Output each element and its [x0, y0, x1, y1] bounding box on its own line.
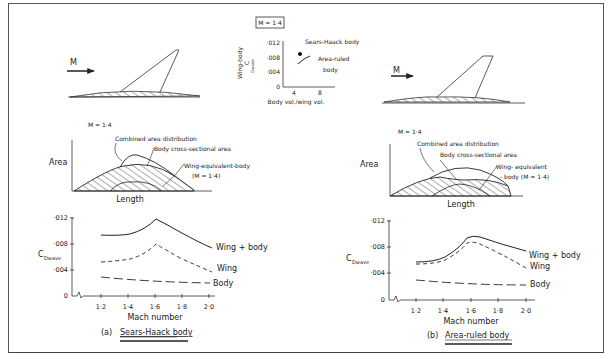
- svg-text:M = 1·4: M = 1·4: [398, 128, 422, 135]
- mach-number-label: Mach number: [127, 313, 183, 322]
- svg-text:Dwave: Dwave: [44, 255, 61, 261]
- inset-mach-label: M = 1·4: [258, 19, 282, 26]
- sears-haack-point: [298, 52, 302, 56]
- svg-text:4: 4: [292, 89, 296, 96]
- series-body: [101, 277, 210, 283]
- svg-text:1·8: 1·8: [177, 303, 187, 311]
- svg-text:1·4: 1·4: [123, 303, 133, 311]
- svg-text:(M = 1·4): (M = 1·4): [192, 172, 220, 179]
- svg-text:2·0: 2·0: [204, 303, 214, 311]
- area-ruled-curve: [298, 56, 310, 64]
- planform-left: M: [67, 50, 200, 97]
- caption-area-ruled: Area-ruled body: [445, 331, 509, 340]
- svg-text:Combined area distribution: Combined area distribution: [417, 140, 499, 147]
- figure-canvas: M M = 1·4 Wing-body C Dwave ·012 ·008 ·0…: [0, 0, 612, 363]
- legend-body-right: Body: [530, 280, 550, 289]
- series-wing-body: [101, 219, 212, 248]
- legend-wing: Wing: [217, 264, 237, 273]
- area-xlabel-right: Length: [447, 200, 475, 209]
- svg-text:·004: ·004: [371, 269, 385, 277]
- area-ylabel-right: Area: [360, 160, 379, 169]
- inset-xlabel: Body vol./wing vol.: [268, 98, 325, 106]
- svg-text:0: 0: [276, 83, 280, 90]
- area-ylabel: Area: [49, 158, 68, 167]
- series-wing-body-right: [416, 236, 526, 262]
- svg-text:1·2: 1·2: [411, 307, 421, 315]
- svg-text:1·6: 1·6: [466, 307, 476, 315]
- svg-text:·012: ·012: [54, 214, 68, 222]
- svg-text:body: body: [323, 66, 338, 74]
- inset-chart: M = 1·4 Wing-body C Dwave ·012 ·008 ·004…: [236, 17, 360, 106]
- svg-text:0: 0: [64, 292, 68, 300]
- svg-text:8: 8: [318, 89, 322, 96]
- body-area-curve-right: [390, 177, 511, 196]
- svg-text:·004: ·004: [54, 266, 68, 274]
- legend-wing-body-right: Wing + body: [529, 251, 581, 260]
- svg-text:1·4: 1·4: [438, 307, 448, 315]
- area-distribution-right: M = 1·4 Area Length Combined area distri…: [360, 128, 549, 209]
- body-outline: [70, 91, 200, 97]
- svg-text:·012: ·012: [267, 39, 281, 46]
- svg-text:Dwave: Dwave: [352, 259, 369, 265]
- caption-sears-haack: Sears-Haack body: [120, 328, 193, 337]
- svg-text:Body cross-sectional area: Body cross-sectional area: [154, 145, 231, 153]
- mach-arrow-label: M: [70, 58, 77, 67]
- svg-text:0: 0: [381, 296, 385, 304]
- mach-number-label-right: Mach number: [443, 317, 499, 326]
- svg-text:1·2: 1·2: [96, 303, 106, 311]
- svg-text:Body cross-sectional area: Body cross-sectional area: [440, 151, 517, 159]
- svg-text:·012: ·012: [371, 217, 385, 225]
- svg-text:- body (M = 1·4): - body (M = 1·4): [500, 173, 549, 181]
- svg-text:Dwave: Dwave: [250, 59, 255, 73]
- drag-chart-left: ·012 ·008 ·004 0 1·2 1·4 1·6 1·8 2·0 C D…: [38, 214, 268, 341]
- legend-body: Body: [213, 279, 233, 288]
- svg-text:(b): (b): [427, 331, 438, 340]
- svg-text:C: C: [243, 61, 250, 65]
- wing-outline: [437, 56, 493, 98]
- body-area-curve: [74, 164, 194, 191]
- svg-text:·008: ·008: [371, 243, 385, 251]
- area-ruled-body-outline: [384, 97, 510, 102]
- svg-text:(a): (a): [101, 328, 112, 337]
- svg-text:1·6: 1·6: [150, 303, 160, 311]
- planform-right: M: [382, 56, 525, 103]
- series-wing: [101, 244, 212, 272]
- svg-text:Area-ruled: Area-ruled: [318, 55, 350, 62]
- svg-text:·008: ·008: [267, 54, 281, 61]
- svg-text:·004: ·004: [267, 68, 281, 75]
- area-distribution-left: M = 1·4 Area Length Combined area distri…: [49, 121, 250, 204]
- drag-chart-right: ·012 ·008 ·004 0 1·2 1·4 1·6 1·8 2·0 C D…: [346, 217, 581, 344]
- svg-text:1·8: 1·8: [493, 307, 503, 315]
- svg-text:·008: ·008: [54, 240, 68, 248]
- svg-text:Wing- equivalent: Wing- equivalent: [496, 163, 548, 171]
- svg-text:Sears-Haack body: Sears-Haack body: [305, 38, 360, 46]
- svg-text:2·0: 2·0: [521, 307, 531, 315]
- series-body-right: [416, 280, 526, 285]
- mach-arrow-label-right: M: [393, 66, 400, 75]
- svg-text:Combined area distribution: Combined area distribution: [115, 135, 197, 142]
- svg-text:M = 1·4: M = 1·4: [88, 121, 112, 128]
- area-xlabel: Length: [116, 195, 144, 204]
- legend-wing-body: Wing + body: [216, 243, 268, 252]
- svg-text:Wing-equivalent-body: Wing-equivalent-body: [184, 162, 250, 170]
- wing-outline: [120, 50, 179, 92]
- legend-wing-right: Wing: [530, 262, 550, 271]
